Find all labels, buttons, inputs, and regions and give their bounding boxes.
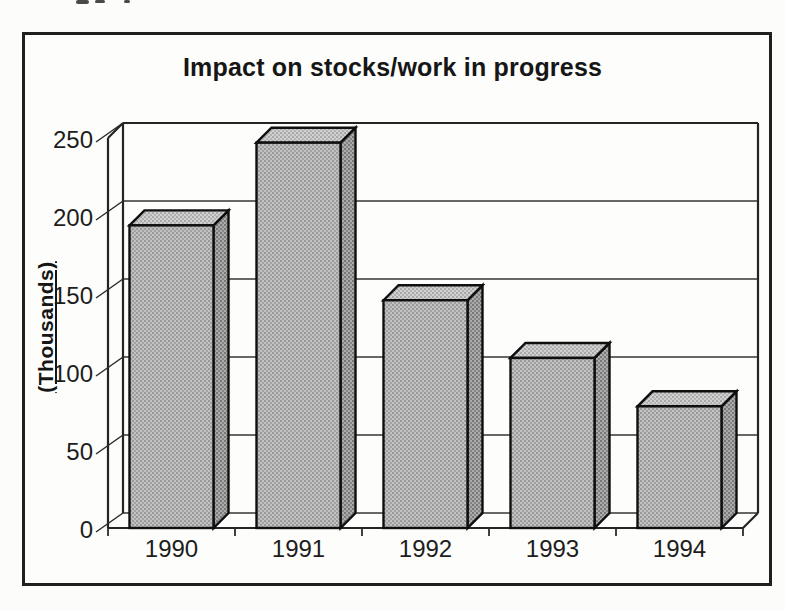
x-category-label: 1992 (399, 535, 452, 562)
bar-top-face (511, 343, 610, 358)
bar-side-face (722, 391, 737, 528)
bar-side-face (595, 343, 610, 528)
y-tick-label: 100 (53, 360, 93, 387)
x-category-label: 1990 (145, 535, 198, 562)
bar-1994 (638, 391, 737, 528)
y-tick-mark (96, 123, 123, 142)
bar-front-face (130, 225, 214, 528)
bar-top-face (384, 285, 483, 300)
y-tick-label: 200 (53, 204, 93, 231)
bar-1993 (511, 343, 610, 528)
y-tick-mark (96, 279, 123, 298)
y-tick-label: 0 (80, 516, 93, 543)
bar-top-face (257, 128, 356, 143)
x-category-label: 1991 (272, 535, 325, 562)
bar-side-face (341, 128, 356, 528)
x-category-label: 1994 (653, 535, 706, 562)
scanned-page: Impact on stocks/work in progress (Thous… (0, 0, 785, 611)
bar-front-face (257, 143, 341, 528)
y-tick-mark (96, 513, 123, 532)
bar-front-face (384, 300, 468, 528)
y-tick-mark (96, 357, 123, 376)
bar-front-face (511, 358, 595, 528)
bar-side-face (214, 210, 229, 528)
y-tick-mark (96, 435, 123, 454)
bar-top-face (638, 391, 737, 406)
bar-side-face (468, 285, 483, 528)
bars (130, 128, 737, 528)
bar-top-face (130, 210, 229, 225)
y-tick-label: 50 (66, 438, 93, 465)
bar-chart-3d: 05010015020025019901991199219931994 (0, 0, 785, 611)
y-tick-mark (96, 201, 123, 220)
bar-1991 (257, 128, 356, 528)
bar-1992 (384, 285, 483, 528)
bar-1990 (130, 210, 229, 528)
bar-front-face (638, 406, 722, 528)
y-tick-label: 250 (53, 126, 93, 153)
x-category-label: 1993 (526, 535, 579, 562)
y-tick-label: 150 (53, 282, 93, 309)
